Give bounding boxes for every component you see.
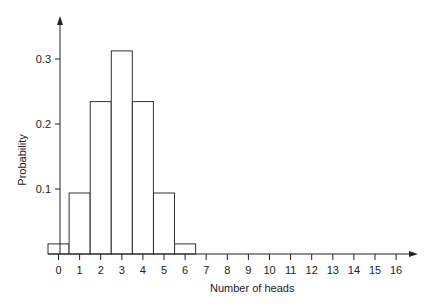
y-tick-label: 0.1 xyxy=(36,183,51,195)
y-axis-label: Probability xyxy=(16,134,28,186)
x-tick-label: 15 xyxy=(369,264,381,276)
x-tick-label: 3 xyxy=(119,264,125,276)
y-ticks: 0.10.20.3 xyxy=(36,53,60,195)
x-tick-label: 7 xyxy=(203,264,209,276)
x-tick-label: 2 xyxy=(98,264,104,276)
x-tick-label: 0 xyxy=(55,264,61,276)
probability-histogram: 0.10.20.3 012345678910111213141516 Numbe… xyxy=(0,0,437,307)
x-tick-label: 11 xyxy=(285,264,296,276)
x-tick-label: 5 xyxy=(161,264,167,276)
x-tick-label: 1 xyxy=(77,264,83,276)
y-tick-label: 0.3 xyxy=(36,53,51,65)
y-axis xyxy=(57,16,63,254)
x-tick-label: 10 xyxy=(263,264,275,276)
x-tick-label: 13 xyxy=(327,264,339,276)
bar-0 xyxy=(48,244,69,254)
y-tick-label: 0.2 xyxy=(36,118,51,130)
x-tick-label: 6 xyxy=(182,264,188,276)
x-ticks: 012345678910111213141516 xyxy=(55,254,402,276)
bar-4 xyxy=(132,102,153,254)
x-tick-label: 4 xyxy=(140,264,146,276)
y-axis-arrow-icon xyxy=(57,16,63,25)
x-axis-arrow-icon xyxy=(409,251,418,257)
x-tick-label: 14 xyxy=(348,264,360,276)
x-axis-label: Number of heads xyxy=(210,282,295,294)
bars xyxy=(48,51,196,254)
x-tick-label: 12 xyxy=(306,264,318,276)
bar-3 xyxy=(111,51,132,254)
bar-2 xyxy=(90,102,111,254)
x-tick-label: 16 xyxy=(390,264,402,276)
x-tick-label: 8 xyxy=(224,264,230,276)
x-tick-label: 9 xyxy=(245,264,251,276)
bar-5 xyxy=(154,193,175,254)
bar-1 xyxy=(69,193,90,254)
bar-6 xyxy=(175,244,196,254)
